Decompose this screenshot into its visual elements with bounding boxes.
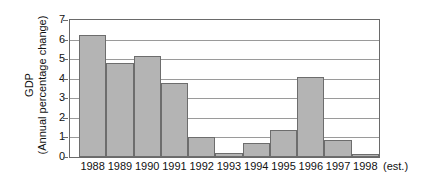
x-axis-tick-label: 1998 <box>348 160 382 173</box>
y-axis-tick-mark <box>63 20 68 21</box>
y-axis-tick-mark <box>63 40 68 41</box>
x-axis-estimate-note: (est.) <box>383 160 408 173</box>
y-axis-title-group: GDP (Annual percentage change) <box>0 0 46 186</box>
y-axis-tick-mark <box>63 137 68 138</box>
bar <box>352 154 379 157</box>
bar <box>215 153 242 157</box>
bar <box>270 130 297 157</box>
bar <box>297 77 324 157</box>
gdp-bar-chart-figure: GDP (Annual percentage change) 01234567 … <box>0 0 424 186</box>
bar <box>134 56 161 157</box>
y-axis-tick-labels: 01234567 <box>46 0 69 186</box>
y-axis-tick-mark <box>63 79 68 80</box>
bar <box>79 35 106 157</box>
bar <box>161 83 188 157</box>
y-axis-tick-mark <box>63 59 68 60</box>
bar <box>106 63 133 157</box>
bar <box>188 137 215 157</box>
plot-area <box>69 19 380 158</box>
bar <box>243 143 270 157</box>
y-axis-tick-mark <box>63 98 68 99</box>
y-axis-tick-mark <box>63 118 68 119</box>
y-axis-title-main: GDP <box>22 10 36 160</box>
y-axis-tick-mark <box>63 157 68 158</box>
bar <box>324 140 351 157</box>
bar-series <box>70 20 379 157</box>
x-axis-tick-labels: 1988198919901991199219931994199519961997… <box>69 160 424 180</box>
